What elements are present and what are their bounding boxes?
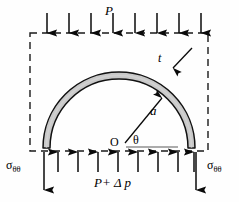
dashed-boundary	[30, 33, 208, 151]
sigma-theta-theta-right: σθθ	[207, 158, 222, 173]
thickness-label: t	[158, 52, 161, 64]
page-edge-artifact	[0, 196, 239, 202]
sigma-left-subscript: θθ	[12, 164, 20, 174]
arch-band	[43, 72, 195, 148]
angle-label: θ	[133, 134, 139, 146]
bottom-pressure-label: P+ Δ p	[94, 176, 131, 189]
diagram-canvas	[0, 0, 239, 202]
arch-pressure-diagram: P t a O θ P+ Δ p σθθ σθθ	[0, 0, 239, 202]
top-pressure-arrows	[47, 13, 201, 33]
origin-label: O	[110, 136, 119, 148]
radius-label: a	[150, 104, 157, 117]
bottom-pressure-arrows	[58, 152, 194, 172]
thickness-arrow	[173, 48, 192, 68]
sigma-right-subscript: θθ	[213, 164, 221, 174]
sigma-theta-theta-left: σθθ	[6, 158, 21, 173]
top-pressure-label: P	[105, 4, 113, 17]
